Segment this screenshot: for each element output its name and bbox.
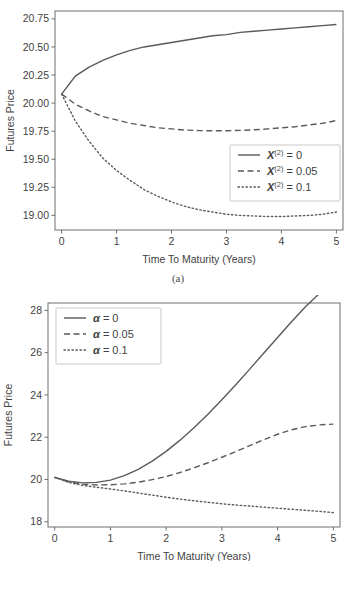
x-tick-label: 4 [279, 235, 285, 247]
y-tick-label: 20 [30, 473, 42, 485]
x-tick-label: 2 [163, 532, 169, 544]
x-axis-title: Time To Maturity (Years) [137, 550, 250, 561]
y-axis-title: Futures Price [4, 89, 16, 152]
legend-label-2: X(2) = 0.1 [266, 180, 311, 193]
x-tick-label: 5 [333, 235, 339, 247]
y-tick-label: 22 [30, 431, 42, 443]
y-tick-label: 24 [30, 389, 42, 401]
x-tick-label: 1 [114, 235, 120, 247]
x-tick-label: 3 [219, 532, 225, 544]
futures-price-chart-x2: 19.0019.2519.5019.7520.0020.2520.5020.75… [0, 0, 356, 272]
y-axis-title: Futures Price [2, 384, 14, 447]
series-line-1 [55, 424, 334, 485]
figure-a-caption: (a) [0, 272, 356, 284]
y-tick-label: 19.25 [23, 181, 49, 193]
legend-label-0: X(2) = 0 [266, 148, 302, 161]
y-tick-label: 28 [30, 304, 42, 316]
y-tick-label: 26 [30, 346, 42, 358]
legend-label-2: α = 0.1 [93, 344, 128, 356]
y-tick-label: 20.50 [23, 41, 49, 53]
legend-label-1: α = 0.05 [93, 328, 134, 340]
legend-label-1: X(2) = 0.05 [266, 164, 317, 177]
legend-label-0: α = 0 [93, 312, 118, 324]
x-tick-label: 1 [107, 532, 113, 544]
y-tick-label: 18 [30, 515, 42, 527]
y-tick-label: 20.75 [23, 12, 49, 24]
figure-a: 19.0019.2519.5019.7520.0020.2520.5020.75… [0, 0, 356, 295]
x-tick-label: 0 [52, 532, 58, 544]
x-tick-label: 5 [330, 532, 336, 544]
x-tick-label: 0 [59, 235, 65, 247]
x-tick-label: 2 [169, 235, 175, 247]
x-tick-label: 4 [275, 532, 281, 544]
x-axis-title: Time To Maturity (Years) [142, 253, 255, 265]
y-tick-label: 19.75 [23, 125, 49, 137]
x-tick-label: 3 [224, 235, 230, 247]
figure-b: 182022242628012345Time To Maturity (Year… [0, 295, 356, 589]
y-tick-label: 20.25 [23, 69, 49, 81]
series-line-0 [62, 24, 337, 94]
series-line-1 [62, 94, 337, 131]
y-tick-label: 19.00 [23, 209, 49, 221]
y-tick-label: 20.00 [23, 97, 49, 109]
y-tick-label: 19.50 [23, 153, 49, 165]
futures-price-chart-alpha: 182022242628012345Time To Maturity (Year… [0, 295, 356, 561]
